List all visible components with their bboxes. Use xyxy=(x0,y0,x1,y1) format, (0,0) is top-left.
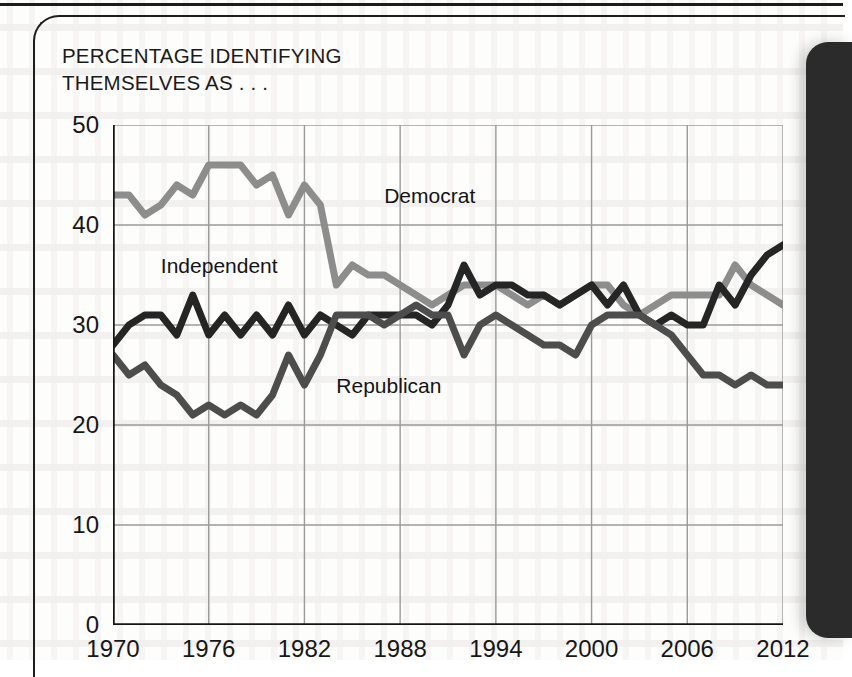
x-tick-label: 1994 xyxy=(446,637,546,661)
y-tick-label: 20 xyxy=(37,413,99,437)
page-top-rule xyxy=(0,3,843,6)
y-tick-label: 50 xyxy=(37,113,99,137)
y-tick-label: 0 xyxy=(37,613,99,637)
x-tick-label: 1976 xyxy=(159,637,259,661)
series-label-republican: Republican xyxy=(336,375,441,396)
y-tick-label: 30 xyxy=(37,313,99,337)
x-tick-label: 2006 xyxy=(637,637,737,661)
series-label-independent: Independent xyxy=(161,255,278,276)
x-tick-label: 2012 xyxy=(733,637,833,661)
x-tick-label: 1982 xyxy=(254,637,354,661)
x-tick-label: 1970 xyxy=(63,637,163,661)
y-tick-label: 10 xyxy=(37,513,99,537)
chart-title: PERCENTAGE IDENTIFYING THEMSELVES AS . .… xyxy=(62,42,482,96)
x-tick-label: 1988 xyxy=(350,637,450,661)
x-tick-label: 2000 xyxy=(542,637,642,661)
y-tick-label: 40 xyxy=(37,213,99,237)
series-label-democrat: Democrat xyxy=(384,185,475,206)
